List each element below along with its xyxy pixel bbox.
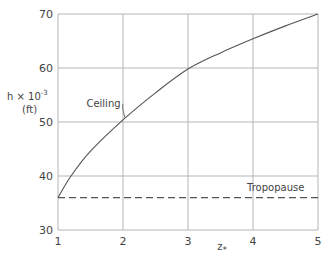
annotation-tropopause: Tropopause bbox=[246, 182, 304, 193]
y-tick-label: 40 bbox=[39, 170, 53, 183]
x-axis-label: z* bbox=[217, 241, 227, 255]
y-tick-label: 60 bbox=[39, 62, 53, 75]
y-tick-label: 70 bbox=[39, 8, 53, 21]
y-axis-label: h × 10-3 bbox=[7, 89, 48, 102]
y-tick-label: 50 bbox=[39, 116, 53, 129]
x-tick-label: 3 bbox=[185, 235, 192, 248]
x-tick-label: 2 bbox=[120, 235, 127, 248]
chart-canvas: 123453040506070h × 10-3(ft)z* CeilingTro… bbox=[0, 0, 330, 259]
annotations: CeilingTropopause bbox=[86, 98, 304, 193]
y-axis-label-exponent: -3 bbox=[41, 89, 48, 97]
annotation-ceiling: Ceiling bbox=[86, 98, 120, 109]
x-tick-label: 4 bbox=[250, 235, 257, 248]
y-axis-label-units: (ft) bbox=[22, 104, 37, 115]
x-tick-label: 1 bbox=[55, 235, 62, 248]
x-axis-label-subscript: * bbox=[223, 245, 228, 255]
x-tick-label: 5 bbox=[315, 235, 322, 248]
y-tick-label: 30 bbox=[39, 224, 53, 237]
tick-labels: 123453040506070h × 10-3(ft)z* bbox=[7, 8, 322, 255]
